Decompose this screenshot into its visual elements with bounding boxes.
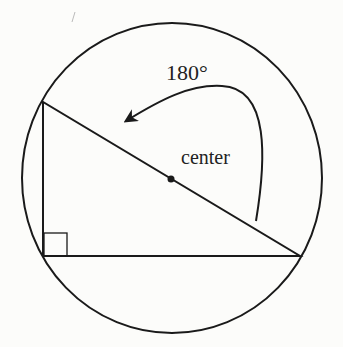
right-angle-marker	[44, 233, 67, 256]
angle-label: 180°	[166, 60, 208, 85]
center-label: center	[181, 146, 230, 168]
stray-mark	[72, 12, 75, 22]
center-point	[168, 176, 175, 183]
diagram-svg: 180° center	[0, 0, 343, 347]
diagram-canvas: 180° center	[0, 0, 343, 347]
